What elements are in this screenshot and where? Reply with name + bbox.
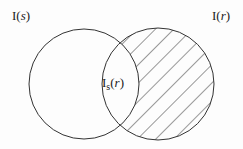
label-main: I xyxy=(12,8,16,23)
label-sub: s xyxy=(106,81,110,92)
label-arg: s xyxy=(21,8,26,23)
label-main: I xyxy=(212,8,216,23)
label-set-left: I(s) xyxy=(12,8,30,24)
label-arg: r xyxy=(115,75,120,90)
label-intersection: Is(r) xyxy=(102,75,124,91)
label-set-right: I(r) xyxy=(212,8,230,24)
label-arg: r xyxy=(221,8,226,23)
